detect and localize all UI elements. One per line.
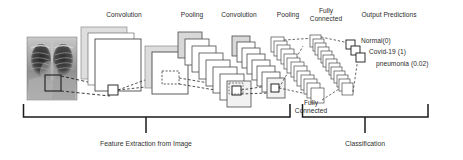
caption-feature-extraction: Feature Extraction from Image [100,140,192,147]
label-output-predictions: Output Predictions [361,11,416,19]
cnn-architecture-figure: Convolution Pooling Convolution Pooling … [0,0,463,160]
label-fully-connected-2-line2: Connected [295,107,327,115]
prediction-covid19: Covid-19 (1) [369,48,406,56]
diagram-canvas [0,0,463,160]
label-convolution-2: Convolution [221,11,256,19]
caption-classification: Classification [345,140,385,147]
prediction-pneumonia: pneumonia (0.02) [376,60,428,68]
feature-extraction-bracket [24,104,291,133]
label-fully-connected-1-line2: Connected [310,15,342,23]
prediction-normal: Normal(0) [361,37,391,45]
label-fully-connected-1-line1: Fully [319,7,333,15]
label-convolution-1: Convolution [106,11,141,19]
label-fully-connected-2-line1: Fully [304,99,318,107]
label-pooling-1: Pooling [181,11,203,19]
label-pooling-2: Pooling [277,11,299,19]
